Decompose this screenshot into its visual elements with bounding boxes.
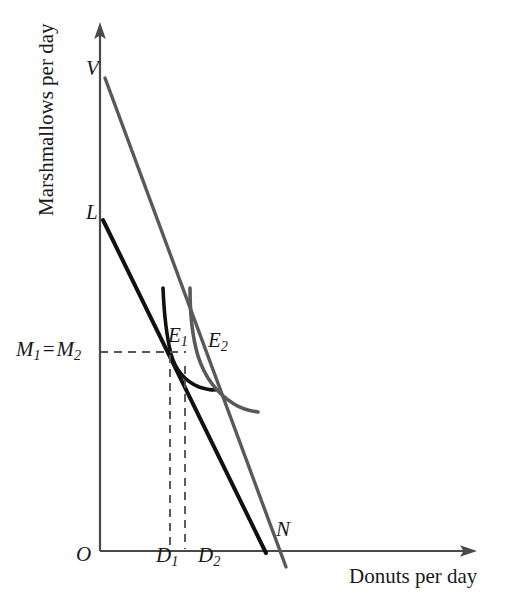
point-label-e2-subscript: 2 — [221, 338, 228, 354]
axis-label-equals-sign: = — [41, 337, 57, 361]
axis-label-m1-subscript: 1 — [34, 347, 41, 363]
axis-label-d2-base: D — [198, 543, 213, 567]
point-label-l: L — [86, 202, 98, 223]
point-label-v: V — [86, 58, 99, 79]
axis-label-m2-subscript: 2 — [74, 347, 81, 363]
axis-label-m2-base: M — [56, 337, 74, 361]
diagram-canvas — [0, 0, 506, 614]
point-label-e2: E2 — [208, 330, 228, 351]
point-label-e1-base: E — [168, 323, 181, 347]
budget-line-gray-vn — [105, 78, 286, 567]
point-label-n: N — [276, 519, 290, 540]
point-label-e2-base: E — [208, 328, 221, 352]
axis-label-m1-base: M — [16, 337, 34, 361]
y-axis-title: Marshmallows per day — [36, 24, 57, 216]
axes-group — [94, 22, 477, 557]
x-axis-title: Donuts per day — [349, 566, 477, 587]
point-label-e1: E1 — [168, 325, 188, 346]
axis-label-d1-subscript: 1 — [171, 553, 178, 569]
axis-label-d2: D2 — [198, 545, 220, 566]
point-label-e1-subscript: 1 — [181, 333, 188, 349]
dashed-guides-group — [100, 352, 186, 549]
axis-label-d1-base: D — [156, 543, 171, 567]
origin-label: O — [76, 544, 91, 565]
axis-label-d1: D1 — [156, 545, 178, 566]
axis-label-d2-subscript: 2 — [213, 553, 220, 569]
axis-label-m1-equals-m2: M1=M2 — [16, 339, 81, 360]
indifference-curve-diagram: Marshmallows per day Donuts per day O V … — [0, 0, 506, 614]
